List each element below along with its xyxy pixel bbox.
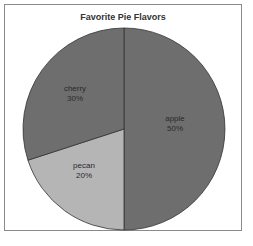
slice-label-pecan: pecan 20% [73,161,95,180]
svg-text:30%: 30% [67,94,83,103]
pie-chart: apple 50% pecan 20% cherry 30% [0,0,253,246]
svg-text:cherry: cherry [64,84,86,93]
svg-text:pecan: pecan [73,161,95,170]
slice-label-apple: apple 50% [165,114,185,133]
svg-text:apple: apple [165,114,185,123]
svg-text:20%: 20% [76,171,92,180]
slice-label-cherry: cherry 30% [64,84,86,103]
svg-text:50%: 50% [167,124,183,133]
